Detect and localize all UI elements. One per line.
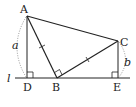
point-label-D: D [23, 81, 32, 94]
point-label-C: C [120, 36, 128, 49]
length-label-a: a [12, 39, 19, 52]
point-label-E: E [113, 81, 121, 94]
right-angle-marker-E [112, 72, 118, 78]
right-angle-marker-D [27, 72, 33, 78]
point-label-B: B [52, 81, 60, 94]
point-label-A: A [19, 3, 29, 16]
segment-AB [27, 16, 57, 78]
line-label-l: l [7, 72, 11, 85]
segment-AC [27, 16, 118, 41]
length-label-b: b [124, 56, 131, 69]
geometry-diagram: A C D B E l a b [0, 0, 136, 107]
